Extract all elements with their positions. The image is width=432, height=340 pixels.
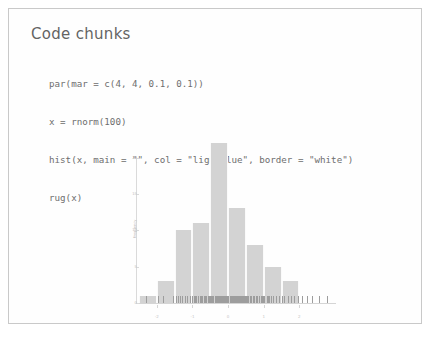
x-axis-tick-label: 2 <box>292 314 306 319</box>
rug-tick <box>284 296 285 303</box>
rug-tick <box>276 296 277 303</box>
rug-tick <box>264 296 265 303</box>
rug-tick <box>312 296 313 303</box>
y-axis-tick-label: 0 <box>123 301 137 305</box>
rug-tick <box>240 296 241 303</box>
rug-tick <box>190 296 191 303</box>
rug-tick <box>233 296 234 303</box>
rug-tick <box>146 296 147 303</box>
rug-tick <box>307 296 308 303</box>
bars-group <box>139 143 335 303</box>
rug-tick <box>282 296 283 303</box>
y-axis-tick-label: 20 <box>123 156 137 160</box>
histogram-bar <box>192 223 210 303</box>
x-axis-tick-label: 0 <box>221 314 235 319</box>
rug-tick <box>230 296 231 303</box>
rug-tick <box>163 296 164 303</box>
rug-plot <box>139 296 336 303</box>
histogram-bar <box>228 208 246 303</box>
histogram-bar <box>210 143 228 303</box>
slide-container: Code chunks par(mar = c(4, 4, 0.1, 0.1))… <box>8 8 422 324</box>
rug-tick <box>251 296 252 303</box>
x-axis-tick-label: -2 <box>150 314 164 319</box>
y-axis-label: Frequency <box>133 201 137 257</box>
x-axis-tick <box>228 305 229 308</box>
rug-tick <box>279 296 280 303</box>
page-title: Code chunks <box>31 25 131 43</box>
rug-tick <box>204 296 205 303</box>
rug-tick <box>262 296 263 303</box>
rug-tick <box>182 296 183 303</box>
rug-tick <box>319 296 320 303</box>
rug-tick <box>291 296 292 303</box>
rug-tick <box>212 296 213 303</box>
x-axis-tick <box>157 305 158 308</box>
y-axis-tick-label: 15 <box>123 192 137 196</box>
x-axis-tick-label: 1 <box>257 314 271 319</box>
rug-tick <box>236 296 237 303</box>
rug-tick <box>298 296 299 303</box>
rug-tick <box>173 296 174 303</box>
histogram-bar <box>175 230 193 303</box>
x-axis-tick <box>264 305 265 308</box>
rug-tick <box>176 296 177 303</box>
rug-tick <box>185 296 186 303</box>
rug-tick <box>180 296 181 303</box>
rug-tick <box>245 296 246 303</box>
rug-tick <box>256 296 257 303</box>
y-axis-tick-label: 5 <box>123 265 137 269</box>
code-line: par(mar = c(4, 4, 0.1, 0.1)) <box>49 78 409 91</box>
code-line: x = rnorm(100) <box>49 116 409 129</box>
rug-tick <box>158 296 159 303</box>
x-axis-tick <box>192 305 193 308</box>
rug-tick <box>224 296 225 303</box>
histogram-bar <box>246 245 264 303</box>
x-axis-tick-label: -1 <box>185 314 199 319</box>
rug-tick <box>217 296 218 303</box>
x-axis-tick <box>299 305 300 308</box>
rug-tick <box>288 296 289 303</box>
rug-tick <box>294 296 295 303</box>
rug-tick <box>302 296 303 303</box>
rug-tick <box>327 296 328 303</box>
histogram-plot: 05101520 Frequency -2-1012 <box>109 149 359 329</box>
rug-tick <box>273 296 274 303</box>
rug-tick <box>268 296 269 303</box>
rug-tick <box>187 296 188 303</box>
rug-tick <box>271 296 272 303</box>
x-axis-line <box>139 303 336 304</box>
